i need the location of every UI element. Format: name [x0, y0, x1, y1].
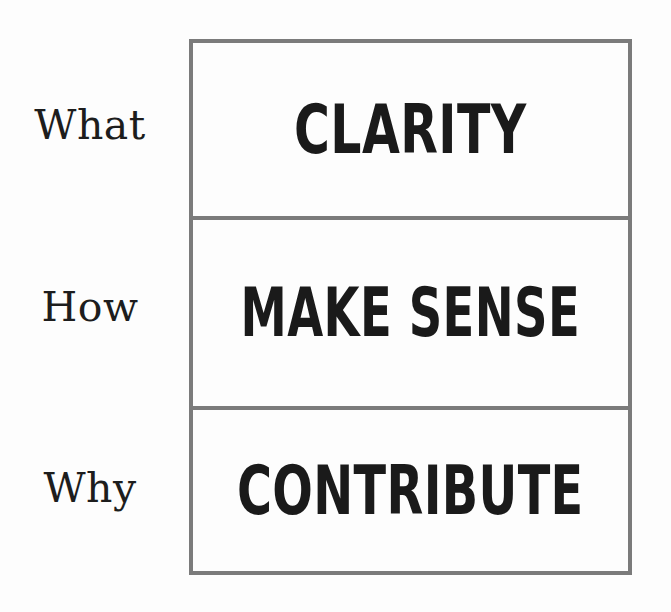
row-label-how-text: How: [41, 287, 138, 328]
stack-cell-what: CLARITY: [193, 43, 628, 216]
stack-cell-why-text: CONTRIBUTE: [237, 457, 584, 525]
value-stack-frame: CLARITY MAKE SENSE CONTRIBUTE: [189, 39, 632, 575]
stack-cell-how: MAKE SENSE: [193, 216, 628, 406]
row-label-why-text: Why: [43, 468, 136, 509]
row-label-what: What: [0, 39, 180, 212]
stack-cell-what-text: CLARITY: [294, 96, 526, 164]
row-label-what-text: What: [34, 105, 145, 146]
row-label-column: What How Why: [0, 39, 180, 575]
row-label-how: How: [0, 212, 180, 402]
stack-cell-how-text: MAKE SENSE: [241, 279, 580, 347]
stack-cell-why: CONTRIBUTE: [193, 406, 628, 571]
row-label-why: Why: [0, 402, 180, 575]
diagram-canvas: What How Why CLARITY MAKE SENSE CONTRIBU…: [0, 0, 671, 612]
